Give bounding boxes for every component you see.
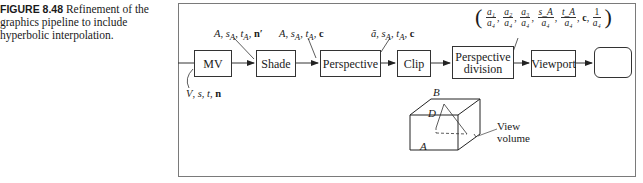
label-after-shade: A, sA, tA, c	[279, 28, 324, 42]
stage-viewport: Viewport	[531, 50, 576, 77]
fraction-a2-a4: a₂a₄	[503, 7, 513, 28]
stage-shade: Shade	[256, 50, 296, 77]
view-volume-label-line2: volume	[497, 132, 530, 144]
fraction-sA-a4: s_Aa₄	[538, 7, 554, 28]
stage-perspective-label: Perspective	[323, 58, 378, 70]
label-after-perspective: ã, sA, tA, c	[371, 28, 414, 42]
point-D-label: D	[428, 107, 436, 119]
stage-perspective-division-label-1: Perspective	[455, 51, 510, 63]
stage-perspective-division: Perspective division	[452, 46, 514, 79]
stage-clip: Clip	[397, 50, 431, 77]
stage-mv: MV	[194, 50, 232, 77]
stage-clip-label: Clip	[404, 58, 425, 70]
fraction-a1-a4: a₁a₄	[486, 7, 496, 28]
point-A-label: A	[420, 140, 427, 152]
label-after-perspective-division: ( a₁a₄, a₂a₄, a₃a₄, s_Aa₄, t_Aa₄, c, 1a₄…	[475, 4, 612, 30]
label-input-attributes: V, s, t, n	[186, 88, 221, 99]
label-after-mv: A, sA, tA, n′	[214, 28, 263, 42]
view-volume-label-line1: View	[497, 120, 530, 132]
fraction-a3-a4: a₃a₄	[520, 7, 530, 28]
stage-perspective-division-label-2: division	[464, 63, 503, 75]
stage-mv-label: MV	[203, 58, 222, 70]
fraction-1-a4: 1a₄	[593, 7, 601, 28]
display-screen	[594, 47, 632, 78]
fraction-tA-a4: t_Aa₄	[561, 7, 576, 28]
stage-shade-label: Shade	[261, 58, 290, 70]
stage-perspective: Perspective	[320, 50, 381, 77]
point-B-label: B	[433, 86, 440, 98]
stage-viewport-label: Viewport	[531, 58, 576, 70]
view-volume-label: View volume	[497, 120, 530, 144]
